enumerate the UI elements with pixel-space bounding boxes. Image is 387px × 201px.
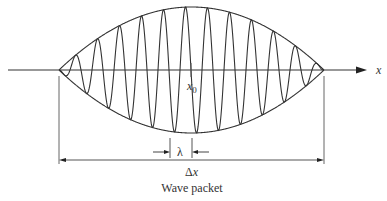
x-axis-arrowhead-icon bbox=[356, 67, 367, 74]
width-label: Δx bbox=[185, 165, 199, 179]
center-label-subscript: 0 bbox=[192, 85, 197, 95]
x-axis-label: x bbox=[375, 63, 382, 77]
width-arrowhead-right-icon bbox=[317, 158, 324, 162]
width-label-var: x bbox=[192, 165, 199, 179]
caption: Wave packet bbox=[161, 181, 223, 195]
width-arrowhead-left-icon bbox=[59, 158, 66, 162]
envelope-upper bbox=[59, 7, 324, 70]
wavelength-arrowhead-right-icon bbox=[192, 150, 198, 154]
wave-packet-figure: x x0 λ Δx Wave packet bbox=[0, 0, 387, 201]
wavelength-label: λ bbox=[177, 145, 183, 159]
center-label: x0 bbox=[186, 79, 197, 95]
wavelength-arrowhead-left-icon bbox=[164, 150, 170, 154]
